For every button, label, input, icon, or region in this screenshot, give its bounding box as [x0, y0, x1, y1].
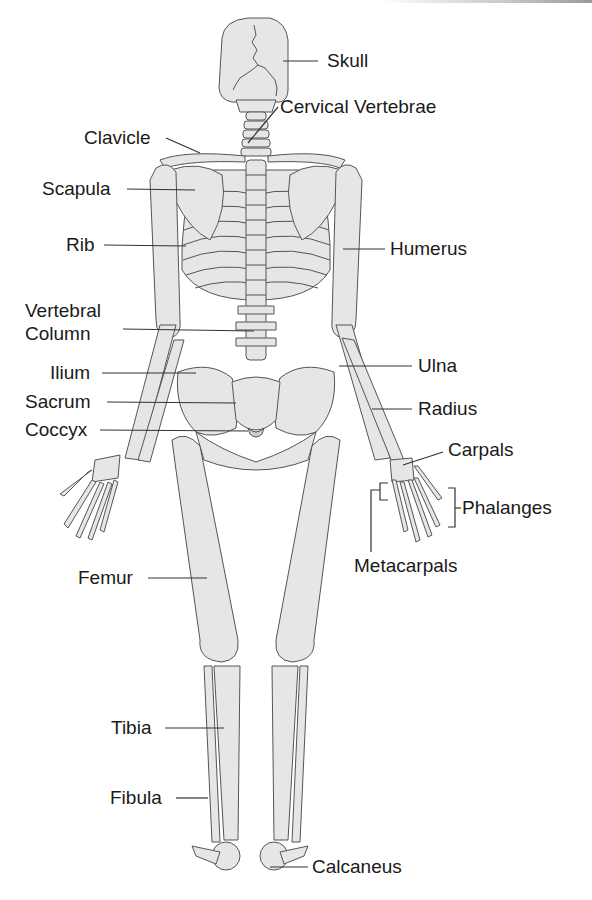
right-clavicle-shape [268, 154, 345, 168]
label-ulna: Ulna [418, 355, 457, 377]
label-scapula: Scapula [42, 178, 111, 200]
label-rib: Rib [66, 234, 95, 256]
label-phalanges: Phalanges [462, 497, 552, 519]
right-femur-shape [276, 436, 340, 662]
label-coccyx: Coccyx [25, 419, 87, 441]
label-radius: Radius [418, 398, 477, 420]
left-clavicle-shape [160, 154, 245, 168]
label-ilium: Ilium [50, 362, 90, 384]
label-cervical-vertebrae: Cervical Vertebrae [280, 96, 436, 118]
skeleton-diagram: Skull Cervical Vertebrae Clavicle Scapul… [0, 0, 592, 900]
label-femur: Femur [78, 567, 133, 589]
label-carpals: Carpals [448, 439, 513, 461]
left-femur-shape [172, 436, 238, 662]
label-tibia: Tibia [111, 717, 151, 739]
label-clavicle: Clavicle [84, 127, 151, 149]
label-vertebral-column-line2: Column [25, 323, 90, 345]
label-humerus: Humerus [390, 238, 467, 260]
right-humerus-shape [332, 165, 362, 338]
label-skull: Skull [327, 50, 368, 72]
label-sacrum: Sacrum [25, 391, 90, 413]
left-humerus-shape [150, 165, 180, 338]
right-ulna-shape [336, 325, 390, 460]
label-calcaneus: Calcaneus [312, 856, 402, 878]
left-hand-shape [60, 455, 120, 540]
label-metacarpals: Metacarpals [354, 555, 458, 577]
feet-shape [192, 842, 308, 870]
skull-shape [219, 18, 288, 112]
label-fibula: Fibula [110, 787, 162, 809]
right-hand-shape [390, 458, 442, 542]
label-vertebral-column-line1: Vertebral [25, 300, 101, 322]
